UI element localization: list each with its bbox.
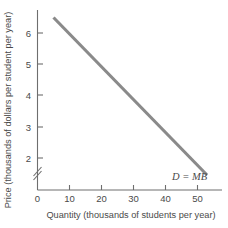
chart-canvas: 6 5 4 3 2 0 10 20 30 40 50 D = MB Quanti… — [0, 0, 228, 228]
x-tick-label-30: 30 — [128, 193, 139, 204]
demand-curve-label: D = MB — [171, 171, 208, 182]
x-tick-label-40: 40 — [160, 193, 171, 204]
x-axis-ticks — [70, 185, 198, 190]
y-axis-ticks — [38, 33, 44, 158]
x-tick-label-10: 10 — [64, 193, 75, 204]
y-tick-label-5: 5 — [26, 59, 31, 70]
y-tick-label-2: 2 — [26, 153, 31, 164]
x-axis-title: Quantity (thousands of students per year… — [46, 210, 215, 220]
y-tick-label-4: 4 — [26, 90, 31, 101]
y-tick-label-3: 3 — [26, 122, 31, 133]
y-axis-title: Price (thousands of dollars per student … — [3, 12, 13, 209]
x-tick-label-0: 0 — [35, 193, 40, 204]
x-tick-label-50: 50 — [192, 193, 203, 204]
demand-curve-line — [54, 18, 208, 176]
demand-curve-figure: 6 5 4 3 2 0 10 20 30 40 50 D = MB Quanti… — [0, 0, 228, 228]
x-tick-label-20: 20 — [96, 193, 107, 204]
y-tick-label-6: 6 — [26, 28, 31, 39]
